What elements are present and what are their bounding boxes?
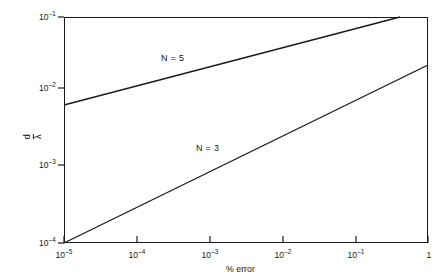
y-axis-title-numerator: d [23,134,32,139]
y-tick-label-1e-1: 10–1 [24,12,56,22]
series-line-n5 [64,17,400,105]
x-tick-label-1e-1: 10–1 [340,250,372,260]
y-axis-title: d λ [23,113,43,139]
series-label-n3: N = 3 [196,143,219,153]
x-tick-label-1e-2: 10–2 [267,250,299,260]
x-tick-label-1e-5: 10–5 [48,250,80,260]
x-axis-title: % error [226,264,255,274]
series-line-n3 [64,65,428,243]
y-axis-title-denominator: λ [34,134,43,139]
y-axis-title-fraction: d λ [23,134,43,139]
y-tick-label-1e-4: 10–4 [24,238,56,248]
x-tick-label-1: 1 [413,250,445,260]
series-label-n5: N = 5 [161,53,184,63]
y-tick-marks [58,17,64,243]
x-tick-label-1e-4: 10–4 [121,250,153,260]
figure-container: 10–1 10–2 10–3 10–4 10–5 10–4 10–3 10–2 … [0,0,446,280]
y-tick-label-1e-2: 10–2 [24,83,56,93]
x-tick-marks [64,236,428,243]
x-tick-label-1e-3: 10–3 [194,250,226,260]
chart-overlay [0,0,446,280]
y-tick-label-1e-3: 10–3 [24,160,56,170]
